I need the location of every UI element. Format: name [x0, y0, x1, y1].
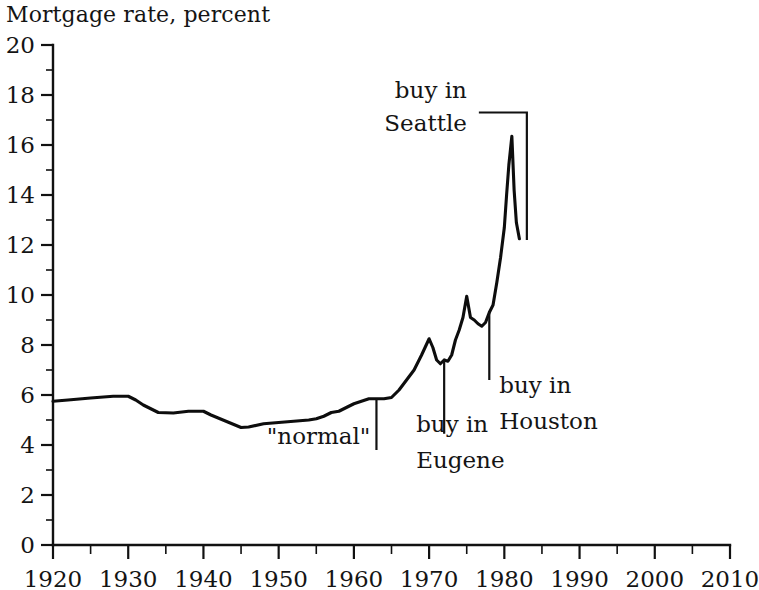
x-tick-label-1960: 1960 [325, 566, 384, 590]
y-tick-label-2: 2 [20, 482, 35, 508]
x-tick-label-1930: 1930 [99, 566, 158, 590]
y-tick-label-14: 14 [6, 182, 35, 208]
y-tick-label-4: 4 [20, 432, 35, 458]
annotation-label-seattle-line2: Seattle [384, 110, 467, 136]
x-tick-label-1940: 1940 [174, 566, 233, 590]
x-axis-tick-labels: 1920193019401950196019701980199020002010 [24, 566, 759, 590]
x-axis: 1920193019401950196019701980199020002010 [24, 545, 759, 590]
x-tick-label-1990: 1990 [550, 566, 609, 590]
annotation-houston: buy inHouston [489, 311, 598, 434]
y-tick-label-20: 20 [6, 32, 35, 58]
y-tick-label-0: 0 [20, 532, 35, 558]
annotation-label-seattle-line1: buy in [395, 77, 467, 103]
x-tick-label-1920: 1920 [24, 566, 83, 590]
y-tick-label-18: 18 [6, 82, 35, 108]
annotation-label-eugene-line2: Eugene [416, 447, 504, 473]
data-line-0 [53, 136, 519, 427]
annotation-label-eugene-line1: buy in [416, 411, 488, 437]
y-tick-label-12: 12 [6, 232, 35, 258]
x-tick-label-1950: 1950 [249, 566, 308, 590]
x-tick-label-1970: 1970 [400, 566, 459, 590]
annotations-group: "normal"buy inEugenebuy inHoustonbuy inS… [267, 77, 598, 473]
annotation-label-houston-line2: Houston [499, 408, 598, 434]
chart-canvas: 02468101214161820 1920193019401950196019… [0, 0, 759, 590]
mortgage-rate-chart: Mortgage rate, percent 02468101214161820… [0, 0, 759, 590]
y-tick-label-10: 10 [6, 282, 35, 308]
y-axis: 02468101214161820 [6, 32, 53, 558]
annotation-label-houston-line1: buy in [499, 372, 571, 398]
y-tick-label-8: 8 [20, 332, 35, 358]
annotation-normal: "normal" [267, 399, 377, 450]
x-tick-label-2000: 2000 [626, 566, 685, 590]
annotation-eugene: buy inEugene [416, 359, 504, 473]
annotation-label-normal: "normal" [267, 423, 371, 449]
x-tick-label-1980: 1980 [475, 566, 534, 590]
y-axis-tick-labels: 02468101214161820 [6, 32, 35, 558]
data-series-group [53, 136, 519, 427]
x-tick-label-2010: 2010 [701, 566, 759, 590]
x-axis-minor-ticks [91, 545, 693, 554]
annotation-leader-seattle [479, 113, 527, 241]
y-tick-label-16: 16 [6, 132, 35, 158]
y-tick-label-6: 6 [20, 382, 35, 408]
